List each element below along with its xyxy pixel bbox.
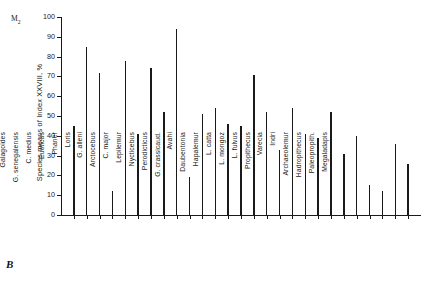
plot-area: 0102030405060708090100 MicrocebusGalagoi…	[61, 17, 421, 215]
y-tick-mark	[57, 116, 61, 117]
x-tick-mark	[370, 215, 371, 219]
x-tick-mark	[164, 215, 165, 219]
x-tick-mark	[138, 215, 139, 219]
y-tick-label: 90	[33, 33, 55, 41]
bar	[356, 136, 358, 215]
x-tick-mark	[125, 215, 126, 219]
bar	[86, 47, 88, 215]
bar	[253, 75, 255, 215]
bar	[176, 29, 178, 215]
y-tick-label: 50	[33, 112, 55, 120]
x-tick-label: L. catta	[205, 132, 212, 222]
x-tick-label: Propithecus	[244, 132, 251, 222]
x-tick-mark	[112, 215, 113, 219]
x-tick-mark	[357, 215, 358, 219]
x-tick-label: L. fulvus	[231, 132, 238, 222]
m2-annotation: M2	[11, 14, 21, 25]
y-tick-mark	[57, 57, 61, 58]
x-tick-mark	[344, 215, 345, 219]
y-tick-label: 70	[33, 72, 55, 80]
x-tick-label: Megaladapis	[321, 132, 328, 222]
x-tick-mark	[241, 215, 242, 219]
bar	[189, 177, 191, 215]
y-tick-mark	[57, 17, 61, 18]
figure-panel-b: B Species means of Index XXVIII, % M2 01…	[0, 0, 436, 288]
x-tick-label: Loris	[64, 132, 71, 222]
x-tick-mark	[74, 215, 75, 219]
bar	[369, 185, 371, 215]
bar	[407, 164, 409, 215]
bar	[125, 61, 127, 215]
bar	[382, 191, 384, 215]
bar	[73, 126, 75, 215]
bar	[266, 112, 268, 215]
x-tick-label: Nycticebus	[128, 132, 135, 222]
y-tick-mark	[57, 96, 61, 97]
bar	[317, 138, 319, 215]
bar	[395, 144, 397, 215]
x-tick-mark	[280, 215, 281, 219]
x-tick-label: Arctocebus	[89, 132, 96, 222]
x-tick-label: Euoticus	[38, 132, 45, 222]
x-tick-mark	[177, 215, 178, 219]
bar	[305, 134, 307, 215]
x-tick-mark	[267, 215, 268, 219]
bar	[292, 108, 294, 215]
bar	[99, 73, 101, 215]
x-tick-label: Perodicticus	[141, 132, 148, 222]
y-tick-mark	[57, 37, 61, 38]
x-tick-mark	[202, 215, 203, 219]
bar	[202, 114, 204, 215]
x-tick-mark	[395, 215, 396, 219]
m2-subscript: 2	[18, 19, 21, 25]
bar	[343, 154, 345, 215]
panel-letter: B	[6, 258, 13, 270]
x-tick-label: Hapalemur	[192, 132, 199, 222]
bar	[330, 112, 332, 215]
x-tick-mark	[151, 215, 152, 219]
bar	[150, 68, 152, 215]
x-tick-mark	[215, 215, 216, 219]
x-tick-mark	[87, 215, 88, 219]
y-tick-label: 100	[33, 13, 55, 21]
x-tick-label: Indri	[269, 132, 276, 222]
bar	[227, 124, 229, 215]
x-tick-label: C. medius	[25, 132, 32, 222]
x-tick-mark	[382, 215, 383, 219]
x-tick-label: C. major	[102, 132, 109, 222]
x-tick-mark	[190, 215, 191, 219]
y-axis-line	[61, 17, 62, 216]
x-tick-label: Phaner	[51, 132, 58, 222]
x-tick-label: Avahi	[166, 132, 173, 222]
x-tick-label: Archaeolemur	[282, 132, 289, 222]
x-tick-mark	[318, 215, 319, 219]
x-tick-label: Varecia	[256, 132, 263, 222]
x-tick-label: G. senegalensis	[12, 132, 19, 222]
x-tick-mark	[100, 215, 101, 219]
x-tick-mark	[408, 215, 409, 219]
bar	[163, 112, 165, 215]
y-tick-label: 60	[33, 92, 55, 100]
bar	[279, 150, 281, 215]
y-tick-mark	[57, 76, 61, 77]
x-tick-label: Paleopropith.	[308, 132, 315, 222]
x-tick-label: G. alleni	[76, 132, 83, 222]
x-tick-mark	[254, 215, 255, 219]
x-tick-label: Galagoides	[0, 132, 6, 222]
x-tick-mark	[305, 215, 306, 219]
x-tick-mark	[228, 215, 229, 219]
x-tick-label: Lepilemur	[115, 132, 122, 222]
y-tick-label: 80	[33, 53, 55, 61]
m2-symbol: M	[11, 14, 18, 23]
x-tick-label: Daubentonia	[179, 132, 186, 222]
x-tick-label: Hadropithecus	[295, 132, 302, 222]
bar	[215, 108, 217, 215]
bar	[240, 126, 242, 215]
bar	[137, 134, 139, 215]
x-tick-mark	[292, 215, 293, 219]
bar	[112, 191, 114, 215]
x-tick-label: L. mongoz	[218, 132, 225, 222]
x-tick-mark	[331, 215, 332, 219]
x-tick-label: G. crassicaud.	[154, 132, 161, 222]
